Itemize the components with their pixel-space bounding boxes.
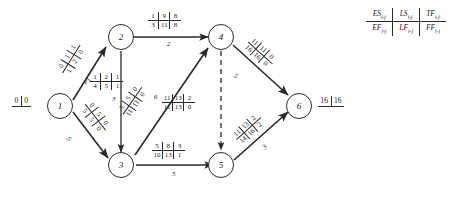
node-3[interactable]: 3	[108, 152, 134, 178]
edge-2-3-tf: 1	[112, 73, 123, 82]
legend-tf-text: TF	[426, 9, 435, 18]
legend-es-sub: i-j	[381, 14, 386, 20]
node-6-label: 6	[297, 102, 302, 111]
edge-duration-3-4: 6	[154, 93, 158, 101]
edge-label-2-4: 1 9 8 3 11 8	[148, 12, 181, 31]
legend-ef: EFi-j	[366, 22, 393, 36]
node-1[interactable]: 1	[47, 93, 73, 119]
edge-duration-2-4: 2	[167, 40, 171, 48]
node-2[interactable]: 2	[108, 24, 134, 50]
edge-3-5-ef: 10	[152, 151, 163, 160]
start-time-left: 0	[12, 96, 21, 106]
edge-4-5-ef: 11	[162, 103, 173, 112]
edge-2-3-ef: 4	[90, 82, 101, 91]
edge-3-5-ff: 1	[174, 151, 185, 160]
legend-box: ESi-j LSi-j TFi-j EFi-j LFi-j FFi-j	[366, 8, 446, 36]
node-5[interactable]: 5	[208, 152, 234, 178]
edge-2-4-ls: 9	[159, 12, 170, 21]
legend-tf-sub: i-j	[435, 14, 440, 20]
legend-es: ESi-j	[366, 8, 393, 22]
legend-lf-text: LF	[399, 23, 408, 32]
edge-2-3-ls: 2	[101, 73, 112, 82]
legend-ef-text: EF	[372, 23, 381, 32]
edge-2-4-tf: 8	[170, 12, 181, 21]
edge-4-5-ls: 13	[173, 94, 184, 103]
edge-4-5-es: 11	[162, 94, 173, 103]
node-2-label: 2	[119, 33, 124, 42]
edge-2-3-ff: 1	[112, 82, 123, 91]
legend-ff-text: FF	[426, 23, 435, 32]
edge-2-4-lf: 11	[159, 21, 170, 30]
legend-es-text: ES	[373, 9, 381, 18]
legend-ef-sub: i-j	[381, 28, 386, 34]
edge-4-5-tf: 2	[184, 94, 195, 103]
start-time-marker: 0 0	[12, 96, 31, 107]
legend-lf: LFi-j	[393, 22, 420, 36]
edge-4-5-lf: 13	[173, 103, 184, 112]
node-1-label: 1	[58, 102, 63, 111]
legend-ls: LSi-j	[393, 8, 420, 22]
legend-lf-sub: i-j	[408, 28, 413, 34]
end-time-right: 16	[331, 96, 344, 106]
edge-2-3-lf: 5	[101, 82, 112, 91]
edge-label-2-3: 1 2 1 4 5 1	[90, 73, 123, 92]
edge-4-5-ff: 0	[184, 103, 195, 112]
edge-3-5-lf: 13	[163, 151, 174, 160]
node-4[interactable]: 4	[208, 24, 234, 50]
node-3-label: 3	[119, 161, 124, 170]
start-time-right: 0	[21, 96, 30, 106]
node-5-label: 5	[219, 161, 224, 170]
edge-3-5-es: 5	[152, 142, 163, 151]
legend-tf: TFi-j	[419, 8, 446, 22]
legend-ff: FFi-j	[419, 22, 446, 36]
edge-label-4-5-dummy: 11 13 2 11 13 0	[162, 94, 195, 113]
network-diagram-canvas: 1 2 3 4 5 6 0 0 16 16 0 1 1 1 2 0	[0, 0, 454, 199]
node-6[interactable]: 6	[286, 93, 312, 119]
edge-3-5-tf: 3	[174, 142, 185, 151]
legend-ff-sub: i-j	[435, 28, 440, 34]
edge-duration-3-5: 5	[172, 170, 176, 178]
edge-duration-2-3: 3	[112, 95, 116, 103]
edge-label-3-5: 5 8 3 10 13 1	[152, 142, 185, 161]
edge-2-4-ff: 8	[170, 21, 181, 30]
legend-ls-text: LS	[400, 9, 408, 18]
edge-2-4-es: 1	[148, 12, 159, 21]
edge-2-4-ef: 3	[148, 21, 159, 30]
end-time-marker: 16 16	[318, 96, 344, 107]
legend-ls-sub: i-j	[408, 14, 413, 20]
edge-3-5-ls: 8	[163, 142, 174, 151]
end-time-left: 16	[318, 96, 331, 106]
node-4-label: 4	[219, 33, 224, 42]
edge-activity-id-2-3: 1	[84, 78, 88, 86]
edge-2-3-es: 1	[90, 73, 101, 82]
